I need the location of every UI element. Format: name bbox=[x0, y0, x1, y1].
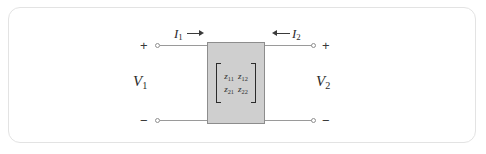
z12-subscript: 12 bbox=[242, 75, 248, 82]
matrix-row: z21 z22 bbox=[222, 83, 250, 96]
label-i1: I1 bbox=[174, 27, 183, 42]
matrix-right-bracket bbox=[251, 63, 256, 103]
matrix-cell-z11: z11 bbox=[222, 70, 236, 83]
z-parameter-matrix: z11 z12 z21 z22 bbox=[211, 63, 261, 103]
i2-arrow-shaft bbox=[277, 33, 290, 34]
i1-subscript: 1 bbox=[178, 32, 182, 42]
matrix-grid: z11 z12 z21 z22 bbox=[222, 70, 250, 96]
sign-output-bottom-minus: − bbox=[322, 114, 330, 127]
wire-input-bottom bbox=[160, 120, 208, 121]
label-i2: I2 bbox=[292, 27, 301, 42]
matrix-cell-z22: z22 bbox=[236, 83, 250, 96]
matrix-row: z11 z12 bbox=[222, 70, 250, 83]
z21-subscript: 21 bbox=[228, 88, 234, 95]
v1-symbol: V bbox=[133, 73, 142, 89]
sign-input-top-plus: + bbox=[140, 39, 148, 52]
v2-subscript: 2 bbox=[325, 80, 330, 91]
i1-arrow-head-right-icon bbox=[199, 30, 204, 36]
terminal-input-bottom bbox=[155, 118, 160, 123]
sign-input-bottom-minus: − bbox=[140, 114, 148, 127]
matrix-cell-z12: z12 bbox=[236, 70, 250, 83]
terminal-input-top bbox=[155, 43, 160, 48]
wire-input-top bbox=[160, 45, 208, 46]
label-v1: V1 bbox=[133, 74, 147, 91]
matrix-left-bracket bbox=[216, 63, 221, 103]
figure-canvas: z11 z12 z21 z22 + − + − V1 V2 I1 I2 bbox=[0, 0, 486, 154]
wire-output-top bbox=[265, 45, 313, 46]
v1-subscript: 1 bbox=[142, 80, 147, 91]
label-v2: V2 bbox=[316, 74, 330, 91]
z11-subscript: 11 bbox=[228, 75, 234, 82]
matrix-cell-z21: z21 bbox=[222, 83, 236, 96]
i2-subscript: 2 bbox=[296, 32, 300, 42]
v2-symbol: V bbox=[316, 73, 325, 89]
z22-subscript: 22 bbox=[242, 88, 248, 95]
sign-output-top-plus: + bbox=[322, 39, 330, 52]
wire-output-bottom bbox=[265, 120, 313, 121]
terminal-output-top bbox=[311, 43, 316, 48]
terminal-output-bottom bbox=[311, 118, 316, 123]
